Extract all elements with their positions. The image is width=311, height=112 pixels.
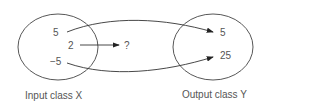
output-element-25: 25 <box>220 50 231 61</box>
input-element-neg5: −5 <box>50 56 61 67</box>
output-set-label: Output class Y <box>182 89 247 100</box>
input-element-5: 5 <box>53 27 59 38</box>
arrow-neg5-to-25 <box>67 57 213 72</box>
output-element-5: 5 <box>220 27 226 38</box>
input-element-2: 2 <box>68 40 74 51</box>
input-set-ellipse <box>18 14 98 80</box>
output-set-ellipse <box>173 14 253 80</box>
input-set-label: Input class X <box>25 90 82 101</box>
unknown-output: ? <box>124 40 130 51</box>
